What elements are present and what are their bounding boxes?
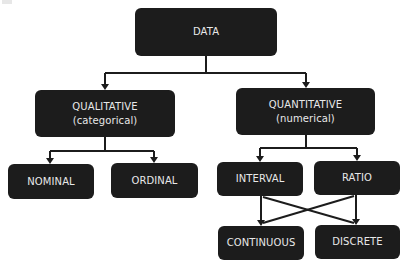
node-ordinal-label: ORDINAL (131, 174, 177, 188)
node-ratio-label: RATIO (342, 171, 372, 185)
node-data-label: DATA (193, 25, 219, 39)
node-ordinal: ORDINAL (111, 163, 198, 198)
node-continuous: CONTINUOUS (218, 226, 304, 260)
node-data: DATA (135, 8, 277, 56)
node-discrete: DISCRETE (315, 225, 400, 259)
node-qualitative: QUALITATIVE (categorical) (35, 90, 175, 137)
node-quantitative: QUANTITATIVE (numerical) (236, 88, 375, 135)
node-ratio: RATIO (314, 161, 400, 195)
node-nominal: NOMINAL (8, 164, 94, 199)
node-discrete-label: DISCRETE (332, 235, 382, 249)
node-interval: INTERVAL (217, 162, 303, 196)
node-qualitative-sublabel: (categorical) (73, 114, 138, 128)
node-quantitative-label: QUANTITATIVE (269, 98, 342, 112)
node-continuous-label: CONTINUOUS (227, 236, 296, 250)
node-quantitative-sublabel: (numerical) (276, 112, 335, 126)
node-nominal-label: NOMINAL (27, 175, 75, 189)
node-interval-label: INTERVAL (236, 172, 285, 186)
node-qualitative-label: QUALITATIVE (72, 100, 137, 114)
